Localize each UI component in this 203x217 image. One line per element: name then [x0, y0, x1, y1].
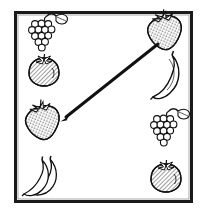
- fruit-matching-worksheet: [0, 0, 203, 217]
- worksheet-canvas: [0, 0, 203, 217]
